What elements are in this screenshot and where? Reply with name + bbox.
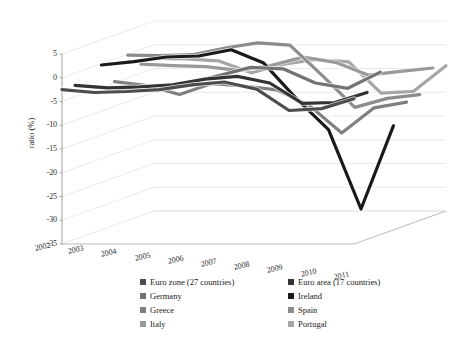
legend-swatch-icon <box>288 307 294 313</box>
y-tick-label: 0 <box>31 73 57 82</box>
legend-item[interactable]: Italy <box>140 318 234 330</box>
legend-swatch-icon <box>140 293 146 299</box>
legend-label: Spain <box>298 305 317 315</box>
y-tick-label: -5 <box>31 97 57 106</box>
chart-figure: ratio (%) 50-5-10-15-20-25-30-35 2002200… <box>0 0 457 340</box>
chart-plot-area: ratio (%) 50-5-10-15-20-25-30-35 2002200… <box>0 0 457 272</box>
legend-swatch-icon <box>140 321 146 327</box>
legend-label: Euro zone (27 countries) <box>150 277 234 287</box>
x-tick-label: 2009 <box>266 263 283 275</box>
legend-label: Ireland <box>298 291 322 301</box>
y-tick-label: -25 <box>31 192 57 201</box>
legend-swatch-icon <box>140 307 146 313</box>
legend-item[interactable]: Euro area (17 countries) <box>288 276 380 288</box>
legend-label: Germany <box>150 291 182 301</box>
chart-legend: Euro zone (27 countries)GermanyGreeceIta… <box>140 276 440 332</box>
y-tick-label: -20 <box>31 168 57 177</box>
legend-label: Portugal <box>298 319 327 329</box>
legend-item[interactable]: Portugal <box>288 318 380 330</box>
legend-label: Italy <box>150 319 166 329</box>
legend-item[interactable]: Spain <box>288 304 380 316</box>
legend-item[interactable]: Germany <box>140 290 234 302</box>
legend-item[interactable]: Greece <box>140 304 234 316</box>
legend-column-left: Euro zone (27 countries)GermanyGreeceIta… <box>140 276 234 332</box>
y-tick-label: -30 <box>31 215 57 224</box>
chart-canvas <box>0 0 457 272</box>
y-tick-label: -15 <box>31 144 57 153</box>
legend-swatch-icon <box>140 279 146 285</box>
legend-item[interactable]: Euro zone (27 countries) <box>140 276 234 288</box>
y-tick-label: -10 <box>31 120 57 129</box>
legend-label: Euro area (17 countries) <box>298 277 380 287</box>
y-tick-label: 5 <box>31 49 57 58</box>
legend-swatch-icon <box>288 279 294 285</box>
legend-swatch-icon <box>288 321 294 327</box>
legend-swatch-icon <box>288 293 294 299</box>
legend-item[interactable]: Ireland <box>288 290 380 302</box>
legend-label: Greece <box>150 305 174 315</box>
legend-column-right: Euro area (17 countries)IrelandSpainPort… <box>288 276 380 332</box>
